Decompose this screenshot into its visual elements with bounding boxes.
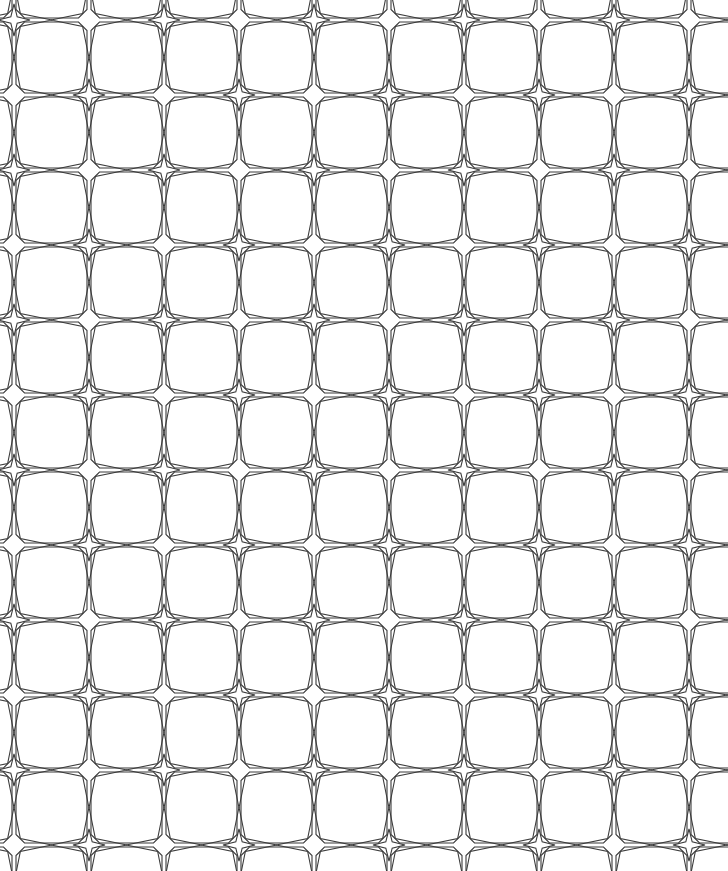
- geometric-pattern-artwork: Seamless Geometric Star Lattice Pattern: [0, 0, 728, 871]
- pattern-fill-rect: [0, 0, 728, 871]
- pattern-canvas: Seamless Geometric Star Lattice Pattern: [0, 0, 728, 871]
